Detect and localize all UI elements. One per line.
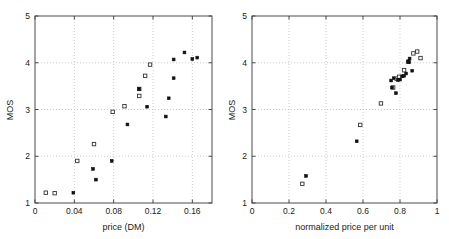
data-point-filled-square [391,86,394,89]
data-point-open-square [301,182,304,185]
data-point-open-square [143,74,146,77]
data-point-open-square [379,102,382,105]
x-axis-title: price (DM) [103,222,145,232]
data-point-filled-square [305,174,308,177]
data-point-filled-square [405,72,408,75]
data-point-filled-square [408,57,411,60]
y-tick-label: 1 [25,198,30,208]
x-axis-title: normalized price per unit [295,222,394,232]
data-point-filled-square [164,115,167,118]
y-tick-label: 5 [25,11,30,21]
y-tick-label: 3 [242,105,247,115]
data-point-open-square [138,94,141,97]
x-tick-label: 0 [250,206,255,216]
data-point-filled-square [172,77,175,80]
figure-root: 00.040.080.120.1612345price (DM)MOS 00.2… [0,0,449,239]
data-point-open-square [44,191,47,194]
x-tick-label: 0.04 [66,206,83,216]
scatter-plot-left: 00.040.080.120.1612345price (DM)MOS [0,0,225,239]
data-point-open-square [402,69,405,72]
data-point-filled-square [392,77,395,80]
data-point-filled-square [399,78,402,81]
y-tick-label: 2 [25,151,30,161]
data-point-filled-square [95,178,98,181]
x-tick-label: 0.6 [357,206,369,216]
y-tick-label: 2 [242,151,247,161]
data-point-filled-square [196,56,199,59]
data-point-open-square [359,123,362,126]
data-point-filled-square [72,191,75,194]
data-point-filled-square [138,88,141,91]
x-tick-label: 0.16 [184,206,201,216]
data-point-open-square [416,50,419,53]
x-tick-label: 0.12 [145,206,162,216]
data-point-filled-square [92,167,95,170]
data-point-filled-square [126,123,129,126]
data-point-open-square [123,105,126,108]
x-tick-label: 1 [435,206,440,216]
data-point-filled-square [183,51,186,54]
y-tick-label: 5 [242,11,247,21]
scatter-panel-price-dm: 00.040.080.120.1612345price (DM)MOS [0,0,225,239]
y-axis-title: MOS [5,100,15,121]
data-point-open-square [53,191,56,194]
x-tick-label: 0 [33,206,38,216]
data-point-filled-square [191,58,194,61]
data-point-open-square [111,110,114,113]
x-tick-label: 0.08 [105,206,122,216]
x-tick-label: 0.2 [283,206,295,216]
y-tick-label: 4 [242,58,247,68]
data-point-filled-square [395,92,398,95]
data-point-filled-square [167,97,170,100]
x-tick-label: 0.4 [320,206,332,216]
data-point-open-square [148,63,151,66]
data-point-filled-square [411,69,414,72]
data-point-filled-square [355,140,358,143]
y-axis-title: MOS [227,100,237,121]
y-tick-label: 4 [25,58,30,68]
data-point-open-square [76,159,79,162]
data-point-open-square [92,142,95,145]
y-tick-label: 3 [25,105,30,115]
scatter-plot-right: 00.20.40.60.8112345normalized price per … [225,0,449,239]
data-point-filled-square [172,58,175,61]
scatter-panel-normalized-price: 00.20.40.60.8112345normalized price per … [225,0,449,239]
x-tick-label: 0.8 [394,206,406,216]
data-point-open-square [419,56,422,59]
data-point-open-square [412,52,415,55]
data-point-filled-square [146,105,149,108]
y-tick-label: 1 [242,198,247,208]
data-point-filled-square [110,160,113,163]
data-point-filled-square [407,61,410,64]
